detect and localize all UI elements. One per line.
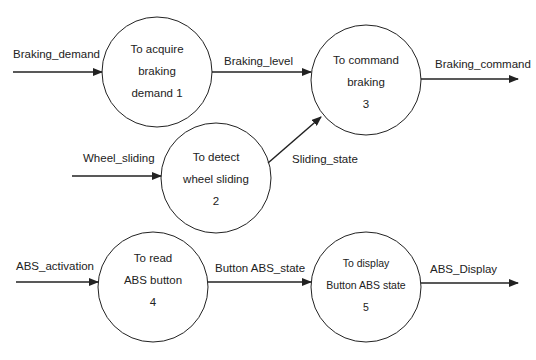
process-5-line-3: 5 <box>363 301 369 314</box>
flow-label-abs-display: ABS_Display <box>430 263 497 276</box>
process-5-line-2: Button ABS state <box>326 279 405 292</box>
process-4-line-1: To read <box>134 252 172 265</box>
flow-label-sliding-state: Sliding_state <box>292 153 358 166</box>
process-circle-4 <box>98 232 208 342</box>
process-5-line-1: To display <box>343 257 390 270</box>
flow-label-button-abs-state: Button ABS_state <box>215 262 305 275</box>
flow-label-wheel-sliding: Wheel_sliding <box>83 152 155 165</box>
process-3-line-2: braking <box>347 76 385 89</box>
flow-label-braking-command: Braking_command <box>435 58 531 71</box>
process-1-line-1: To acquire <box>130 43 183 56</box>
process-1-line-2: braking <box>138 65 176 78</box>
process-2-line-2: wheel sliding <box>183 173 249 186</box>
flow-label-braking-level: Braking_level <box>224 55 293 68</box>
process-1-line-3: demand 1 <box>131 87 182 100</box>
process-3-line-3: 3 <box>363 98 369 111</box>
process-2-line-3: 2 <box>213 195 219 208</box>
flow-label-abs-activation: ABS_activation <box>16 260 94 273</box>
process-2-line-1: To detect <box>193 151 240 164</box>
process-4-line-3: 4 <box>150 296 156 309</box>
process-3-line-1: To command <box>333 54 399 67</box>
flow-label-braking-demand: Braking_demand <box>13 48 100 61</box>
process-4-line-2: ABS button <box>124 274 182 287</box>
